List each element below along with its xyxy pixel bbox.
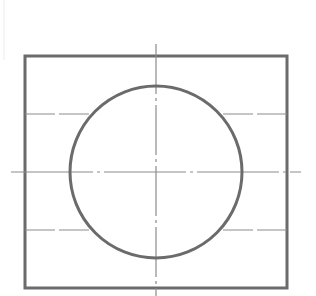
drawing-canvas bbox=[0, 0, 316, 296]
technical-drawing bbox=[0, 0, 316, 296]
